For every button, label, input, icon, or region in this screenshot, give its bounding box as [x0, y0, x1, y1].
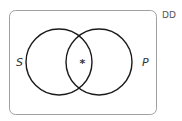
intersection-asterisk: *: [80, 57, 86, 70]
set-s-label: S: [16, 56, 23, 69]
corner-label: DD: [162, 10, 176, 20]
set-p-circle: [66, 29, 132, 95]
venn-diagram: S P * DD: [0, 0, 182, 121]
set-p-label: P: [142, 56, 149, 69]
